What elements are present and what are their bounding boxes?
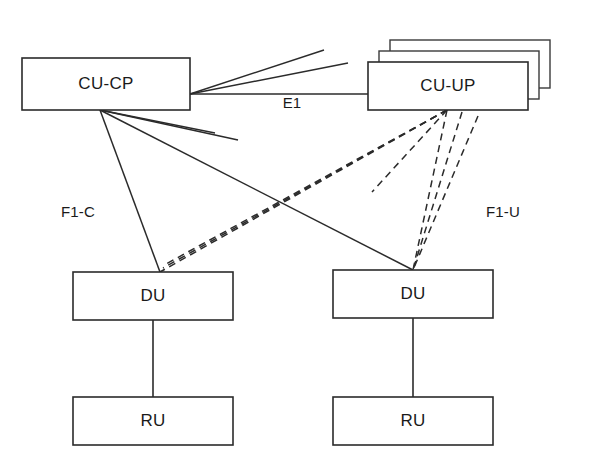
link-f1u-stub: [372, 110, 447, 192]
node-du-left[interactable]: DU: [73, 272, 233, 320]
edge-label-f1-u: F1-U: [486, 203, 520, 220]
node-ru-right[interactable]: RU: [333, 397, 493, 445]
node-label-ru-left: RU: [140, 411, 165, 430]
f1c-interface-links: [100, 110, 413, 272]
link-f1u-right-c: [413, 116, 478, 270]
interface-labels: E1F1-CF1-U: [61, 94, 520, 220]
node-label-ru-right: RU: [400, 411, 425, 430]
edge-label-e1: E1: [283, 94, 302, 111]
link-f1c-du-right: [100, 110, 413, 270]
link-f1c-stub-b: [100, 110, 215, 133]
node-cu-up[interactable]: CU-UP: [368, 62, 528, 110]
link-f1c-du-left: [100, 110, 160, 272]
diagram-canvas: CU-CPCU-UPDUDURURU E1F1-CF1-U: [0, 0, 599, 471]
node-label-du-right: DU: [400, 284, 425, 303]
node-label-cu-up: CU-UP: [420, 76, 475, 95]
node-label-cu-cp: CU-CP: [78, 74, 133, 93]
node-ru-left[interactable]: RU: [73, 397, 233, 445]
link-f1u-right-a: [413, 110, 447, 270]
link-f1u-right-b: [413, 112, 462, 270]
edge-label-f1-c: F1-C: [61, 203, 95, 220]
architecture-diagram: CU-CPCU-UPDUDURURU E1F1-CF1-U: [0, 0, 599, 471]
node-du-right[interactable]: DU: [333, 270, 493, 318]
network-function-nodes: CU-CPCU-UPDUDURURU: [22, 58, 528, 445]
f1u-interface-links: [160, 110, 478, 272]
e1-interface-links: [190, 50, 368, 94]
du-ru-fronthaul-links: [153, 318, 413, 397]
node-cu-cp[interactable]: CU-CP: [22, 58, 190, 110]
node-label-du-left: DU: [140, 286, 165, 305]
